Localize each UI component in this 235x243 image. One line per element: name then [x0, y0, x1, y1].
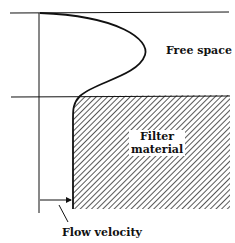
filter-material-label: Filter material — [129, 130, 185, 156]
flow-velocity-label: Flow velocity — [62, 227, 142, 239]
diagram-graphics — [0, 0, 235, 243]
filter-label-line1: Filter — [131, 130, 183, 143]
flow-velocity-leader — [59, 205, 68, 222]
free-space-label: Free space — [166, 45, 232, 57]
flow-profile-diagram: Free space Filter material Flow velocity — [0, 0, 235, 243]
filter-label-line2: material — [131, 143, 183, 156]
